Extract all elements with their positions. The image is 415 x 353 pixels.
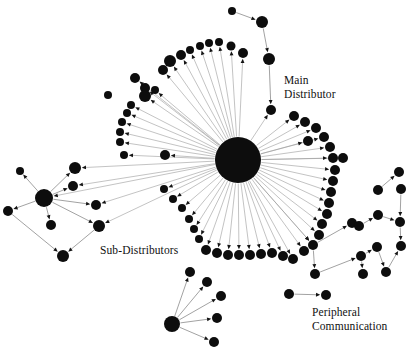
graph-node[interactable] bbox=[68, 181, 78, 191]
graph-node[interactable] bbox=[93, 220, 105, 232]
graph-node[interactable] bbox=[3, 206, 13, 216]
graph-node[interactable] bbox=[289, 111, 299, 121]
graph-node[interactable] bbox=[185, 215, 193, 223]
graph-node[interactable] bbox=[190, 225, 198, 233]
graph-node[interactable] bbox=[396, 184, 406, 194]
graph-node[interactable] bbox=[395, 217, 405, 227]
graph-node[interactable] bbox=[356, 251, 366, 261]
graph-node[interactable] bbox=[228, 7, 236, 15]
graph-node[interactable] bbox=[223, 250, 233, 260]
graph-edge bbox=[251, 116, 267, 140]
graph-node[interactable] bbox=[328, 153, 338, 163]
graph-node[interactable] bbox=[314, 230, 324, 240]
graph-node[interactable] bbox=[263, 53, 275, 65]
graph-node[interactable] bbox=[116, 138, 124, 146]
graph-node[interactable] bbox=[266, 105, 276, 115]
graph-hub-node[interactable] bbox=[35, 189, 53, 207]
labels-layer: MainDistributorSub-DistributorsPeriphera… bbox=[100, 74, 388, 332]
graph-node[interactable] bbox=[373, 210, 383, 220]
graph-node[interactable] bbox=[116, 128, 124, 136]
graph-node[interactable] bbox=[238, 48, 248, 58]
graph-edge bbox=[263, 28, 267, 50]
graph-node[interactable] bbox=[46, 220, 56, 230]
graph-node[interactable] bbox=[325, 142, 335, 152]
graph-node[interactable] bbox=[158, 65, 168, 75]
graph-node[interactable] bbox=[267, 248, 277, 258]
graph-node[interactable] bbox=[372, 242, 382, 252]
graph-node[interactable] bbox=[381, 267, 391, 277]
graph-node[interactable] bbox=[373, 185, 383, 195]
graph-node[interactable] bbox=[354, 221, 364, 231]
graph-node[interactable] bbox=[120, 151, 128, 159]
label-line-1: Sub-Distributors bbox=[100, 244, 179, 256]
graph-node[interactable] bbox=[245, 250, 255, 260]
graph-node[interactable] bbox=[139, 90, 151, 102]
graph-node[interactable] bbox=[212, 313, 222, 323]
graph-edge bbox=[211, 49, 233, 137]
graph-node[interactable] bbox=[326, 187, 336, 197]
graph-node[interactable] bbox=[196, 42, 204, 50]
graph-edge bbox=[244, 183, 260, 247]
graph-node[interactable] bbox=[321, 290, 331, 300]
graph-node[interactable] bbox=[328, 176, 338, 186]
graph-node[interactable] bbox=[160, 185, 168, 193]
graph-edge bbox=[193, 178, 223, 214]
edge-arrowhead-icon bbox=[398, 212, 402, 216]
graph-node[interactable] bbox=[57, 250, 69, 262]
graph-node[interactable] bbox=[160, 150, 170, 160]
graph-node[interactable] bbox=[322, 209, 332, 219]
graph-node[interactable] bbox=[215, 38, 223, 46]
graph-node[interactable] bbox=[308, 240, 318, 250]
graph-node[interactable] bbox=[358, 269, 368, 279]
graph-node[interactable] bbox=[178, 204, 186, 212]
edge-arrowhead-icon bbox=[129, 154, 133, 158]
graph-edge bbox=[126, 134, 215, 155]
graph-node[interactable] bbox=[338, 153, 348, 163]
graph-node[interactable] bbox=[202, 277, 212, 287]
graph-hub-node[interactable] bbox=[215, 137, 261, 183]
graph-node[interactable] bbox=[310, 269, 320, 279]
graph-node[interactable] bbox=[209, 337, 219, 347]
graph-node[interactable] bbox=[317, 219, 327, 229]
graph-node[interactable] bbox=[278, 251, 288, 261]
graph-node[interactable] bbox=[324, 198, 334, 208]
graph-node[interactable] bbox=[185, 267, 195, 277]
edge-arrowhead-icon bbox=[323, 177, 328, 181]
graph-node[interactable] bbox=[394, 167, 404, 177]
graph-node[interactable] bbox=[130, 73, 140, 83]
graph-node[interactable] bbox=[91, 200, 101, 210]
graph-node[interactable] bbox=[118, 118, 126, 126]
graph-node[interactable] bbox=[123, 109, 131, 117]
graph-node[interactable] bbox=[69, 162, 81, 174]
graph-node[interactable] bbox=[195, 235, 203, 243]
graph-node[interactable] bbox=[256, 249, 266, 259]
graph-node[interactable] bbox=[216, 291, 226, 301]
graph-node[interactable] bbox=[234, 250, 244, 260]
graph-node[interactable] bbox=[169, 195, 177, 203]
graph-node[interactable] bbox=[16, 167, 24, 175]
graph-node[interactable] bbox=[205, 39, 213, 47]
graph-node[interactable] bbox=[319, 132, 329, 142]
graph-node[interactable] bbox=[299, 246, 309, 256]
graph-node[interactable] bbox=[256, 16, 268, 28]
graph-node[interactable] bbox=[151, 86, 159, 94]
graph-hub-node[interactable] bbox=[164, 316, 180, 332]
graph-node[interactable] bbox=[284, 289, 294, 299]
graph-node[interactable] bbox=[104, 91, 112, 99]
graph-node[interactable] bbox=[288, 254, 298, 264]
graph-node[interactable] bbox=[396, 241, 406, 251]
graph-node[interactable] bbox=[127, 101, 135, 109]
graph-node[interactable] bbox=[176, 50, 186, 60]
graph-node[interactable] bbox=[201, 245, 211, 255]
graph-node[interactable] bbox=[212, 248, 222, 258]
label-line-1: Peripheral bbox=[312, 306, 360, 319]
graph-node[interactable] bbox=[186, 46, 194, 54]
graph-node[interactable] bbox=[330, 165, 340, 175]
graph-node[interactable] bbox=[227, 42, 236, 51]
edge-arrowhead-icon bbox=[125, 132, 130, 136]
graph-node[interactable] bbox=[300, 117, 310, 127]
graph-node[interactable] bbox=[303, 136, 313, 146]
graph-edge bbox=[261, 148, 322, 157]
graph-node[interactable] bbox=[164, 55, 176, 67]
graph-node[interactable] bbox=[311, 123, 321, 133]
